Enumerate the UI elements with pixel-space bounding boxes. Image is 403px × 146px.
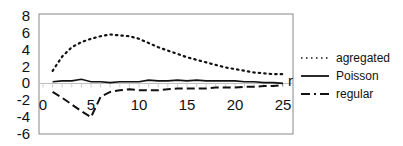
legend-item-agregated: agregated [300, 51, 390, 65]
solid-line-icon [300, 73, 330, 79]
y-tick-label: 0 [22, 74, 30, 91]
plot-frame [39, 14, 293, 134]
x-tick-label: 15 [179, 96, 196, 113]
y-tick-label: 8 [22, 7, 30, 24]
y-tick-label: -2 [17, 91, 30, 108]
x-tick-label: 20 [227, 96, 244, 113]
legend-item-regular: regular [300, 87, 373, 101]
y-axis-ticks: 86420-2-4-6 [17, 7, 30, 142]
y-tick-label: -4 [17, 108, 30, 125]
x-tick-label: 10 [131, 96, 148, 113]
dotted-line-icon [300, 55, 330, 61]
x-tick-label: 25 [275, 96, 292, 113]
y-tick-label: 2 [22, 58, 30, 75]
x-tick-label: 0 [39, 96, 47, 113]
legend-label: Poisson [336, 69, 379, 83]
x-axis-label: r [288, 72, 293, 89]
dash-dot-line-icon [300, 91, 330, 97]
legend-label: regular [336, 87, 373, 101]
y-tick-label: 6 [22, 24, 30, 41]
legend-item-poisson: Poisson [300, 69, 379, 83]
y-tick-label: 4 [22, 41, 30, 58]
series-poisson [53, 79, 283, 83]
series-agregated [53, 35, 283, 75]
legend-label: agregated [336, 51, 390, 65]
y-tick-label: -6 [17, 125, 30, 142]
